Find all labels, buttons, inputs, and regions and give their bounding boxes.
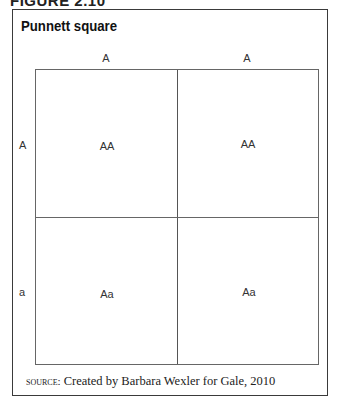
punnett-grid: AA AA Aa Aa <box>35 69 319 365</box>
row-allele-2: a <box>19 286 25 298</box>
figure-title: Punnett square <box>21 17 117 34</box>
cell-r1-c2: AA <box>228 138 268 150</box>
figure-label: FIGURE 2.10 <box>10 0 106 9</box>
source-prefix: source: <box>26 375 61 387</box>
cell-r1-c1: AA <box>87 140 127 152</box>
row-allele-1: A <box>19 139 26 151</box>
cell-r2-c2: Aa <box>229 286 269 298</box>
source-note: source: Created by Barbara Wexler for Ga… <box>26 374 275 389</box>
source-text: Created by Barbara Wexler for Gale, 2010 <box>64 374 276 388</box>
cell-r2-c1: Aa <box>87 288 127 300</box>
column-allele-2: A <box>237 52 257 64</box>
grid-horizontal-divider <box>36 217 318 218</box>
column-allele-1: A <box>96 52 116 64</box>
